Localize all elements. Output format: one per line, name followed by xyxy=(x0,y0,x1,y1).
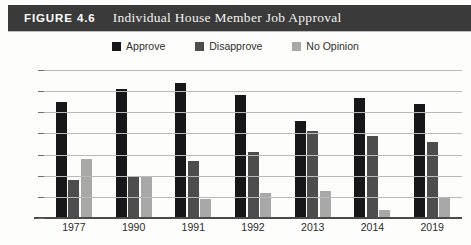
bar-group xyxy=(104,70,164,218)
bar-group xyxy=(343,70,403,218)
legend-label: No Opinion xyxy=(306,40,359,52)
x-axis-tick-label: 2019 xyxy=(402,221,462,237)
gridline xyxy=(44,70,462,71)
gridline xyxy=(44,176,462,177)
y-tick-mark xyxy=(38,70,44,71)
y-tick-mark xyxy=(38,133,44,134)
y-tick-mark xyxy=(38,112,44,113)
x-axis-labels: 1977199019911992201320142019 xyxy=(44,221,462,237)
x-axis-tick-label: 1977 xyxy=(44,221,104,237)
gridline xyxy=(44,197,462,198)
gridline xyxy=(44,133,462,134)
bar-approve[interactable] xyxy=(235,95,246,218)
bar-group xyxy=(44,70,104,218)
y-tick-mark xyxy=(38,176,44,177)
plot-area: 70%6050403020100 xyxy=(44,70,462,218)
bar-approve[interactable] xyxy=(354,98,365,219)
square-swatch-icon xyxy=(112,42,121,51)
y-tick-mark xyxy=(38,218,44,219)
x-axis-tick-label: 1990 xyxy=(104,221,164,237)
bar-group xyxy=(163,70,223,218)
figure-container: FIGURE 4.6 Individual House Member Job A… xyxy=(0,0,471,245)
bar-disapprove[interactable] xyxy=(307,131,318,218)
y-tick-mark xyxy=(38,155,44,156)
figure-number: FIGURE 4.6 xyxy=(24,12,96,24)
bar-disapprove[interactable] xyxy=(68,180,79,218)
y-tick-mark xyxy=(38,197,44,198)
x-axis-tick-label: 2013 xyxy=(283,221,343,237)
gridline xyxy=(44,91,462,92)
x-axis-tick-label: 2014 xyxy=(343,221,403,237)
chart-legend: ApproveDisapproveNo Opinion xyxy=(0,38,471,54)
x-axis-tick-label: 1991 xyxy=(163,221,223,237)
bar-approve[interactable] xyxy=(116,89,127,218)
bar-disapprove[interactable] xyxy=(248,152,259,218)
figure-header-band: FIGURE 4.6 Individual House Member Job A… xyxy=(8,5,471,31)
bar-no-opinion[interactable] xyxy=(320,191,331,218)
x-axis-tick-label: 1992 xyxy=(223,221,283,237)
gridline xyxy=(44,155,462,156)
legend-item: Disapprove xyxy=(195,40,262,52)
gridline xyxy=(44,112,462,113)
bar-groups xyxy=(44,70,462,218)
y-tick-mark xyxy=(38,91,44,92)
legend-label: Approve xyxy=(126,40,165,52)
bar-disapprove[interactable] xyxy=(188,161,199,218)
bar-no-opinion[interactable] xyxy=(200,199,211,218)
square-swatch-icon xyxy=(195,42,204,51)
bar-group xyxy=(402,70,462,218)
bar-no-opinion[interactable] xyxy=(439,197,450,218)
bar-approve[interactable] xyxy=(295,121,306,218)
x-axis-line xyxy=(34,217,462,219)
bar-approve[interactable] xyxy=(414,104,425,218)
bar-group xyxy=(283,70,343,218)
legend-item: Approve xyxy=(112,40,165,52)
square-swatch-icon xyxy=(292,42,301,51)
bar-approve[interactable] xyxy=(56,102,67,218)
legend-item: No Opinion xyxy=(292,40,359,52)
bar-disapprove[interactable] xyxy=(367,136,378,218)
bar-no-opinion[interactable] xyxy=(81,159,92,218)
bar-disapprove[interactable] xyxy=(427,142,438,218)
bar-group xyxy=(223,70,283,218)
legend-label: Disapprove xyxy=(209,40,262,52)
figure-title: Individual House Member Job Approval xyxy=(113,10,342,26)
